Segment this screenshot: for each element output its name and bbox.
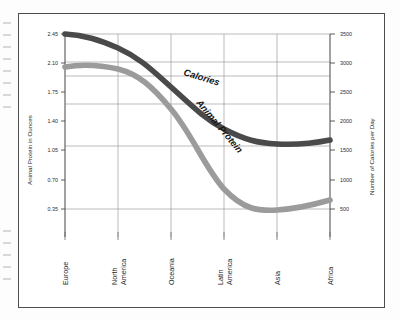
series-line-animal-protein [65,65,330,210]
left-axis-title: Animal Protein in Ounces [26,115,33,185]
category-axis-ticks [65,232,330,240]
horizontal-gridlines [65,34,330,209]
left-tick-label-4: 1.05 [48,147,59,153]
right-tick-label-5: 1000 [340,177,352,183]
left-tick-label-5: 0.70 [48,177,59,183]
category-label-europe: Europe [61,262,70,285]
right-tick-label-2: 2500 [340,89,352,95]
left-tick-label-2: 1.75 [48,89,59,95]
category-label-north: North [110,267,119,285]
right-axis-title: Number of Calories per Day [368,117,375,195]
series-annotation-animal-protein: Animal Protein [194,96,246,155]
right-axis: 3500 3000 2500 2000 1500 1000 500 [330,31,352,237]
category-label-north-america: America [119,259,128,285]
category-label-asia: Asia [273,271,282,285]
series-annotation-calories: Calories [182,66,221,87]
category-label-latin-america: America [225,259,234,285]
chart-canvas: 2.45 2.10 1.75 1.40 1.05 0.70 0.35 3500 … [0,0,400,320]
right-tick-label-6: 500 [340,206,349,212]
left-tick-label-3: 1.40 [48,118,59,124]
protein-calories-line-chart: 2.45 2.10 1.75 1.40 1.05 0.70 0.35 3500 … [0,0,400,320]
category-label-africa: Africa [326,267,335,285]
left-tick-label-1: 2.10 [48,60,59,66]
left-tick-label-0: 2.45 [48,31,59,37]
left-axis: 2.45 2.10 1.75 1.40 1.05 0.70 0.35 [48,31,66,237]
right-tick-label-1: 3000 [340,60,352,66]
right-tick-label-0: 3500 [340,31,352,37]
right-tick-label-4: 1500 [340,147,352,153]
category-label-oceania: Oceania [167,258,176,285]
right-tick-label-3: 2000 [340,118,352,124]
category-labels: Europe North America Oceania Latin Ameri… [61,258,335,285]
left-tick-label-6: 0.35 [48,206,59,212]
category-label-latin: Latin [216,269,225,285]
series-line-calories [65,34,330,144]
